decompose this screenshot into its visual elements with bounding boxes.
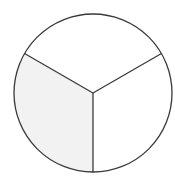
divider-line-3	[93, 54, 161, 94]
circle-figure	[0, 0, 175, 196]
shaded-sector	[14, 54, 93, 173]
fraction-circle-diagram	[0, 0, 175, 196]
